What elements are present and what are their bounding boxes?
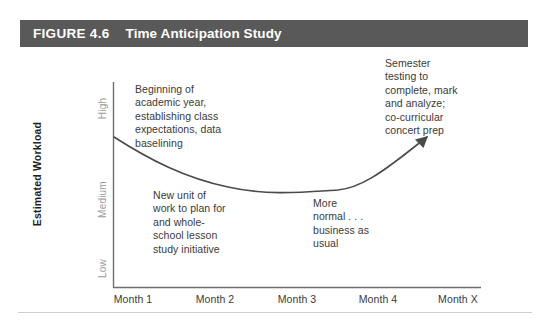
annotation-month3: More normal . . . business as usual bbox=[313, 197, 369, 251]
annotation-month2: New unit of work to plan for and whole- … bbox=[153, 189, 226, 256]
y-axis-title: Estimated Workload bbox=[31, 104, 43, 244]
workload-curve-arrowhead bbox=[415, 136, 428, 148]
figure-container: FIGURE 4.6 Time Anticipation Study Estim… bbox=[0, 0, 551, 321]
chart-plot-area: Estimated Workload High Medium Low Month… bbox=[0, 0, 551, 321]
x-tick-month-4: Month 4 bbox=[338, 293, 418, 305]
annotation-month4-line-1: Semester bbox=[385, 57, 457, 70]
annotation-month1-line-4: expectations, data bbox=[135, 123, 221, 136]
x-tick-month-2: Month 2 bbox=[175, 293, 255, 305]
chart-svg bbox=[0, 0, 551, 321]
annotation-month4-line-4: and analyze; bbox=[385, 97, 457, 110]
annotation-month4-line-2: testing to bbox=[385, 70, 457, 83]
annotation-month3-line-4: usual bbox=[313, 237, 369, 250]
figure-bottom-rule bbox=[18, 312, 532, 313]
y-tick-medium: Medium bbox=[97, 170, 108, 230]
annotation-month1-line-2: academic year, bbox=[135, 96, 221, 109]
annotation-month1-line-3: establishing class bbox=[135, 110, 221, 123]
annotation-month1-line-1: Beginning of bbox=[135, 83, 221, 96]
annotation-month1: Beginning of academic year, establishing… bbox=[135, 83, 221, 150]
x-tick-month-3: Month 3 bbox=[257, 293, 337, 305]
annotation-month4-line-3: complete, mark bbox=[385, 84, 457, 97]
annotation-month4: Semester testing to complete, mark and a… bbox=[385, 57, 457, 137]
y-tick-high: High bbox=[97, 79, 108, 139]
x-tick-month-x: Month X bbox=[418, 293, 498, 305]
annotation-month2-line-2: work to plan for bbox=[153, 202, 226, 215]
annotation-month3-line-1: More bbox=[313, 197, 369, 210]
annotation-month2-line-4: school lesson bbox=[153, 229, 226, 242]
y-tick-low: Low bbox=[97, 239, 108, 299]
annotation-month2-line-3: and whole- bbox=[153, 216, 226, 229]
annotation-month3-line-2: normal . . . bbox=[313, 210, 369, 223]
annotation-month3-line-3: business as bbox=[313, 224, 369, 237]
annotation-month2-line-1: New unit of bbox=[153, 189, 226, 202]
annotation-month4-line-6: concert prep bbox=[385, 124, 457, 137]
annotation-month2-line-5: study initiative bbox=[153, 243, 226, 256]
x-tick-month-1: Month 1 bbox=[93, 293, 173, 305]
annotation-month4-line-5: co-curricular bbox=[385, 111, 457, 124]
annotation-month1-line-5: baselining bbox=[135, 137, 221, 150]
